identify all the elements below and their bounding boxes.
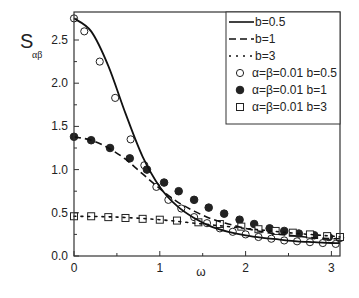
legend-label: b=1 (255, 32, 276, 46)
y-tick-label: 0.0 (51, 249, 68, 263)
data-point-marker (220, 210, 228, 218)
legend-label: α=β=0.01 b=0.5 (252, 66, 337, 80)
y-tick-label: 2.0 (51, 76, 68, 90)
y-tick-label: 1.5 (51, 119, 68, 133)
data-point-marker (112, 94, 119, 101)
data-point-marker (280, 227, 288, 235)
data-point-marker (175, 187, 183, 195)
y-tick-label: 1.0 (51, 163, 68, 177)
data-point-marker (96, 58, 103, 65)
data-point-marker (127, 136, 134, 143)
legend-marker-icon (237, 104, 244, 111)
x-axis-label: ω (196, 265, 205, 279)
legend-label: b=3 (255, 49, 276, 63)
data-point-marker (160, 179, 168, 187)
legend-label: α=β=0.01 b=1 (252, 83, 327, 97)
data-point-marker (205, 204, 213, 212)
y-axis-label-subscript: αβ (32, 49, 42, 60)
legend: b=0.5b=1b=3α=β=0.01 b=0.5α=β=0.01 b=1α=β… (226, 12, 340, 124)
legend-label: α=β=0.01 b=3 (252, 100, 327, 114)
x-tick-label: 1 (156, 261, 163, 275)
y-tick-label: 2.5 (51, 33, 68, 47)
x-tick-label: 3 (328, 261, 335, 275)
legend-marker-icon (236, 86, 244, 94)
chart: 0123 0.00.51.01.52.02.5 S αβ ω b=0.5b=1b… (0, 0, 359, 298)
legend-item: α=β=0.01 b=0.5 (236, 66, 337, 80)
data-point-marker (190, 196, 198, 204)
x-tick-label: 0 (71, 261, 78, 275)
legend-marker-icon (236, 69, 243, 76)
legend-label: b=0.5 (255, 15, 286, 29)
data-point-marker (81, 28, 88, 35)
y-tick-label: 0.5 (51, 206, 68, 220)
data-point-marker (236, 216, 244, 224)
x-tick-label: 2 (242, 261, 249, 275)
